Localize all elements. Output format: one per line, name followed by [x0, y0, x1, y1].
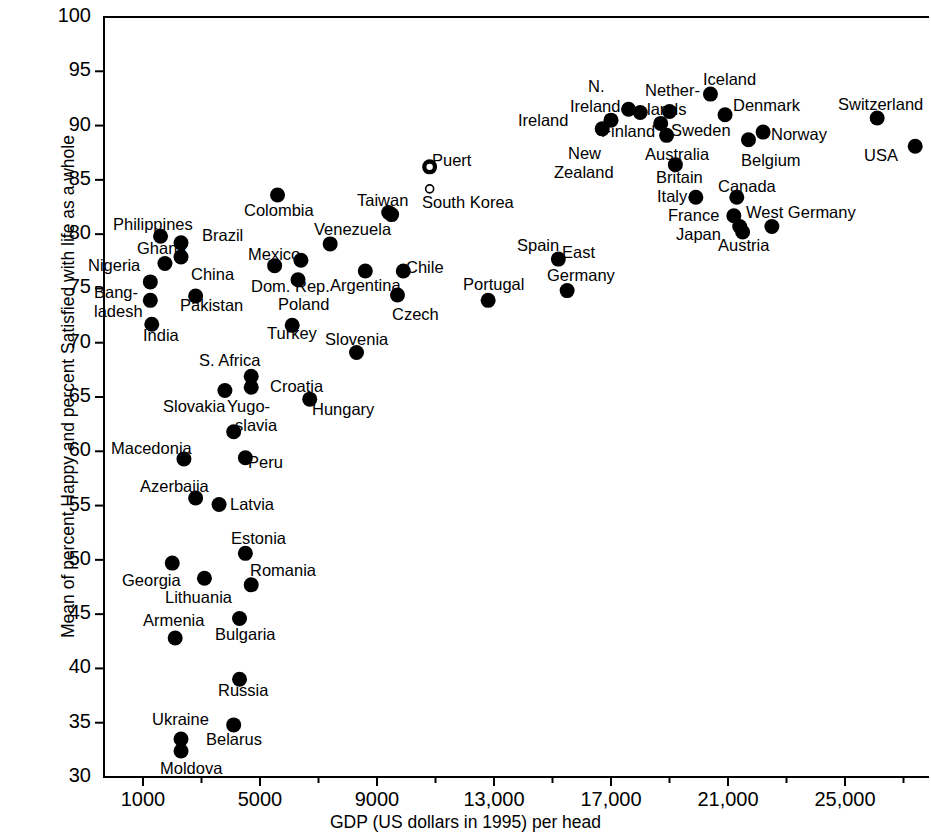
data-point-marker [633, 105, 648, 120]
point-label: Australia [645, 146, 709, 163]
point-label: Bang- [94, 284, 138, 301]
data-point-marker [212, 497, 227, 512]
data-point-marker [244, 380, 259, 395]
point-label: ladesh [94, 303, 143, 320]
data-point-marker [688, 190, 703, 205]
x-tick-label: 25,000 [775, 788, 915, 811]
data-point-marker [165, 556, 180, 571]
point-label: France [668, 207, 719, 224]
x-axis-title: GDP (US dollars in 1995) per head [0, 812, 931, 833]
point-label: USA [864, 147, 898, 164]
point-label: Venezuela [314, 221, 391, 238]
data-point-marker [157, 256, 172, 271]
data-point-marker [217, 383, 232, 398]
data-point-marker [481, 293, 496, 308]
point-label: East [562, 244, 595, 261]
data-point-marker [232, 611, 247, 626]
point-label: South Korea [422, 194, 514, 211]
point-label: S. Africa [199, 352, 260, 369]
data-point-marker [197, 571, 212, 586]
data-point-marker [756, 125, 771, 140]
data-point-marker [143, 274, 158, 289]
point-label: Sweden [671, 122, 731, 139]
data-point-marker [174, 743, 189, 758]
data-point-marker [703, 87, 718, 102]
point-label: Croatia [270, 378, 323, 395]
point-label: Romania [250, 562, 316, 579]
point-label: Bulgaria [215, 626, 276, 643]
point-label: Brazil [202, 227, 243, 244]
data-point-marker [764, 219, 779, 234]
point-label: Ukraine [152, 711, 209, 728]
point-label: Japan [676, 226, 721, 243]
point-label: Poland [278, 296, 329, 313]
point-label: Lithuania [165, 589, 232, 606]
point-label: Iceland [703, 71, 756, 88]
point-label: Nether- [645, 82, 700, 99]
point-label: Colombia [244, 202, 314, 219]
point-label: India [143, 327, 179, 344]
point-label: Turkey [267, 325, 317, 342]
data-point-marker [168, 631, 183, 646]
point-label: Czech [392, 306, 439, 323]
point-label: Mexico [248, 246, 300, 263]
point-label: Canada [718, 178, 776, 195]
point-label: Switzerland [838, 96, 923, 113]
point-label: West Germany [746, 204, 856, 221]
point-label: Peru [248, 454, 283, 471]
point-label: Slovakia [163, 398, 225, 415]
point-label: Yugo- [227, 398, 270, 415]
point-label: Georgia [122, 572, 181, 589]
point-label: lands [647, 101, 686, 118]
point-label: Latvia [230, 496, 274, 513]
point-label: Moldova [160, 760, 222, 777]
point-label: New [568, 145, 601, 162]
data-point-marker [238, 546, 253, 561]
point-label: Russia [218, 682, 268, 699]
tick-marks [95, 71, 904, 786]
point-label: Puert [432, 152, 471, 169]
point-label: Azerbaija [140, 478, 209, 495]
y-axis-title: Mean of percent Happy and percent Satisf… [58, 7, 79, 767]
point-label: Belgium [741, 152, 801, 169]
point-label: Italy [657, 188, 687, 205]
point-label: Argentina [330, 277, 401, 294]
point-label: Philippines [113, 216, 193, 233]
point-label: Spain [517, 237, 559, 254]
point-label: Taiwan [357, 192, 408, 209]
scatter-plot-figure: 3035404550556065707580859095100 10005000… [0, 0, 931, 840]
point-label: Britain [656, 169, 703, 186]
point-label: Germany [547, 267, 615, 284]
puerto-rico-open-marker [426, 185, 434, 193]
point-label: Austria [718, 237, 769, 254]
data-point-marker [244, 577, 259, 592]
point-label: Nigeria [88, 257, 140, 274]
data-point-marker [323, 236, 338, 251]
y-tick-label: 30 [0, 764, 91, 787]
data-point-marker [741, 132, 756, 147]
data-point-marker [143, 293, 158, 308]
point-label: Finland [601, 123, 655, 140]
point-label: Armenia [143, 612, 204, 629]
point-label: Hungary [312, 401, 374, 418]
point-label: Norway [771, 126, 827, 143]
point-label: Ghana [137, 240, 187, 257]
point-label: Slovenia [325, 331, 388, 348]
data-point-marker [718, 107, 733, 122]
point-label: Zealand [554, 164, 614, 181]
point-label: Dom. Rep. [251, 278, 330, 295]
point-label: Portugal [463, 276, 524, 293]
point-label: N. [588, 78, 605, 95]
point-label: Ireland [518, 112, 568, 129]
point-label: Belarus [206, 731, 262, 748]
point-label: China [191, 266, 234, 283]
point-label: Denmark [733, 97, 800, 114]
point-label: slavia [235, 417, 277, 434]
point-label: Estonia [231, 530, 286, 547]
point-label: Chile [406, 259, 444, 276]
point-label: Macedonia [111, 440, 192, 457]
data-point-marker [908, 139, 923, 154]
point-label: Pakistan [180, 297, 243, 314]
point-label: Ireland [570, 98, 620, 115]
data-point-marker [560, 283, 575, 298]
